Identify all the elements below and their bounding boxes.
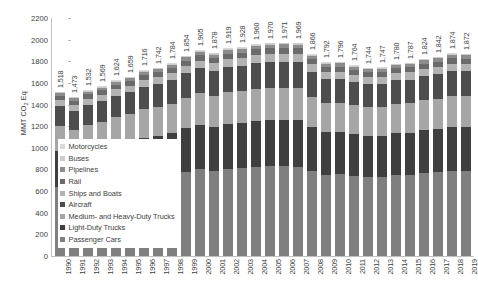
bar-segment [279, 166, 289, 256]
bar-segment [209, 127, 219, 171]
legend-item[interactable]: Ships and Boats [60, 187, 175, 199]
bar-total-label: 1,764 [349, 44, 358, 62]
bar-segment [167, 80, 177, 104]
bar-segment [195, 61, 205, 69]
bar-segment [265, 166, 275, 256]
bar-group[interactable]: 1,866 [305, 18, 319, 256]
bar-segment [335, 72, 345, 79]
legend-item[interactable]: Motorcycles [60, 141, 175, 153]
bar-segment [181, 66, 191, 73]
bar-segment [307, 72, 317, 97]
bar-group[interactable]: 1,919 [221, 18, 235, 256]
x-axis-tick: 2011 [346, 258, 360, 290]
bar-segment [223, 67, 233, 92]
x-axis-tick: 2005 [262, 258, 276, 290]
legend-item-label: Buses [69, 154, 89, 163]
legend-item[interactable]: Medium- and Heavy-Duty Trucks [60, 211, 175, 223]
x-axis-tick: 1994 [108, 258, 122, 290]
bar-segment [391, 73, 401, 80]
bar-group[interactable]: 1,747 [375, 18, 389, 256]
legend-item[interactable]: Pipelines [60, 164, 175, 176]
bar-segment [223, 59, 233, 67]
bar-group[interactable]: 1,874 [445, 18, 459, 256]
bar-segment [433, 67, 443, 74]
bar-stack: 1,854 [181, 56, 191, 257]
x-axis-tick: 1991 [66, 258, 80, 290]
bar-total-label: 1,878 [209, 31, 218, 49]
legend-item[interactable]: Aircraft [60, 199, 175, 211]
bar-segment [391, 104, 401, 133]
bar-segment [405, 80, 415, 104]
bar-segment [461, 64, 471, 71]
bar-group[interactable]: 1,796 [333, 18, 347, 256]
bar-segment [433, 99, 443, 129]
bar-segment [251, 167, 261, 256]
bar-group[interactable]: 1,792 [319, 18, 333, 256]
legend-item[interactable]: Light-Duty Trucks [60, 222, 175, 234]
x-axis-tick: 2012 [360, 258, 374, 290]
bar-total-label: 1,787 [405, 41, 414, 59]
bar-segment [195, 125, 205, 170]
bar-segment [405, 175, 415, 256]
x-axis-tick: 2008 [304, 258, 318, 290]
x-axis-tick-label: 2019 [470, 259, 478, 275]
bar-group[interactable]: 1,970 [263, 18, 277, 256]
bar-stack: 1,792 [321, 62, 331, 256]
bar-segment [391, 133, 401, 175]
bar-segment [461, 127, 471, 171]
x-axis-tick: 1996 [136, 258, 150, 290]
bar-segment [139, 80, 149, 87]
bar-segment [293, 88, 303, 120]
bar-total-label: 1,569 [97, 65, 106, 83]
bar-group[interactable]: 1,842 [431, 18, 445, 256]
bar-segment [405, 103, 415, 132]
bar-total-label: 1,874 [447, 32, 456, 50]
bar-total-label: 1,919 [223, 27, 232, 45]
y-axis-tick-label: 1800 [18, 57, 48, 66]
y-axis-tick-label: 1400 [18, 100, 48, 109]
bar-group[interactable]: 1,872 [459, 18, 473, 256]
x-axis-tick: 2017 [430, 258, 444, 290]
bar-stack: 1,878 [209, 53, 219, 256]
bar-group[interactable]: 1,824 [417, 18, 431, 256]
bar-segment [265, 54, 275, 62]
x-axis-tick: 2015 [402, 258, 416, 290]
x-axis-tick: 2016 [416, 258, 430, 290]
bar-group[interactable]: 1,971 [277, 18, 291, 256]
bar-group[interactable]: 1,764 [347, 18, 361, 256]
bar-segment [405, 133, 415, 175]
bar-stack: 1,842 [433, 57, 443, 256]
bar-segment [237, 66, 247, 92]
bar-group[interactable]: 1,969 [291, 18, 305, 256]
legend-item[interactable]: Rail [60, 176, 175, 188]
legend-item[interactable]: Passenger Cars [60, 234, 175, 246]
bar-segment [55, 106, 65, 126]
bar-total-label: 1,792 [321, 41, 330, 59]
legend-item-label: Light-Duty Trucks [69, 223, 126, 232]
bar-group[interactable]: 1,878 [207, 18, 221, 256]
bar-segment [293, 120, 303, 166]
bar-group[interactable]: 1,928 [235, 18, 249, 256]
bar-group[interactable]: 1,854 [179, 18, 193, 256]
bar-group[interactable]: 1,787 [403, 18, 417, 256]
bar-stack: 1,970 [265, 43, 275, 256]
bar-stack: 1,874 [447, 53, 457, 256]
bar-stack: 1,796 [335, 62, 345, 256]
bar-segment [377, 77, 387, 84]
bar-group[interactable]: 1,780 [389, 18, 403, 256]
legend-swatch-icon [60, 225, 65, 230]
y-axis-tick-labels: 0200400600800100012001400160018002000220… [18, 18, 48, 256]
bar-segment [293, 54, 303, 62]
bar-stack: 1,744 [363, 68, 373, 257]
bar-group[interactable]: 1,744 [361, 18, 375, 256]
bar-total-label: 1,518 [55, 70, 64, 88]
bar-segment [419, 69, 429, 76]
bar-group[interactable]: 1,960 [249, 18, 263, 256]
x-axis-tick: 2013 [374, 258, 388, 290]
bar-stack: 1,905 [195, 50, 205, 256]
legend-swatch-icon [60, 202, 65, 207]
bar-segment [419, 130, 429, 173]
bar-group[interactable]: 1,905 [193, 18, 207, 256]
legend-item[interactable]: Buses [60, 153, 175, 165]
bar-segment [433, 129, 443, 172]
